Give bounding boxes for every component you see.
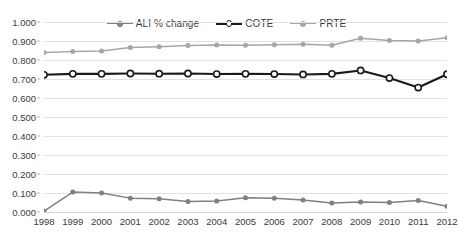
y-axis: 0.0000.1000.2000.3000.4000.5000.6000.700… xyxy=(0,22,40,212)
data-series xyxy=(44,190,447,212)
x-axis-tick-label: 2002 xyxy=(149,216,170,227)
data-point-marker xyxy=(99,191,104,196)
data-point-marker xyxy=(157,196,162,201)
x-axis-tick-label: 2001 xyxy=(120,216,141,227)
y-axis-tick-mark xyxy=(37,79,40,80)
data-point-marker xyxy=(156,71,162,77)
x-axis-tick-label: 2008 xyxy=(321,216,342,227)
y-axis-tick-label: 0.800 xyxy=(12,55,36,66)
data-point-marker xyxy=(185,43,190,48)
data-point-marker xyxy=(358,67,364,73)
y-axis-tick-label: 0.900 xyxy=(12,36,36,47)
data-series xyxy=(44,67,447,90)
y-axis-tick-mark xyxy=(37,174,40,175)
data-point-marker xyxy=(300,71,306,77)
x-axis-tick-label: 2010 xyxy=(379,216,400,227)
data-series xyxy=(44,35,447,55)
x-axis-tick-label: 2012 xyxy=(436,216,457,227)
y-axis-tick-label: 0.500 xyxy=(12,112,36,123)
data-point-marker xyxy=(387,200,392,205)
y-axis-tick-label: 0.700 xyxy=(12,74,36,85)
data-point-marker xyxy=(329,200,334,205)
data-point-marker xyxy=(416,39,421,44)
data-point-marker xyxy=(128,196,133,201)
x-axis-tick-label: 1999 xyxy=(62,216,83,227)
data-point-marker xyxy=(416,198,421,203)
data-point-marker xyxy=(70,190,75,195)
data-point-marker xyxy=(70,49,75,54)
data-point-marker xyxy=(157,44,162,49)
y-axis-tick-mark xyxy=(37,22,40,23)
x-axis-tick-label: 2006 xyxy=(264,216,285,227)
series-layer xyxy=(44,22,447,212)
data-point-marker xyxy=(329,43,334,48)
y-axis-tick-mark xyxy=(37,155,40,156)
y-axis-tick-mark xyxy=(37,117,40,118)
plot-area xyxy=(44,22,447,212)
data-point-marker xyxy=(185,199,190,204)
x-axis-tick-label: 2004 xyxy=(206,216,227,227)
data-point-marker xyxy=(444,71,447,77)
data-point-marker xyxy=(214,42,219,47)
x-axis-tick-label: 2000 xyxy=(91,216,112,227)
data-point-marker xyxy=(98,71,104,77)
y-axis-tick-mark xyxy=(37,193,40,194)
x-axis-tick-label: 2009 xyxy=(350,216,371,227)
series-line xyxy=(44,192,447,211)
data-point-marker xyxy=(99,49,104,54)
data-point-marker xyxy=(44,72,47,78)
x-axis-tick-label: 2011 xyxy=(408,216,428,227)
x-axis-tick-label: 2003 xyxy=(177,216,198,227)
y-axis-tick-mark xyxy=(37,212,40,213)
data-point-marker xyxy=(44,50,47,55)
data-point-marker xyxy=(127,70,133,76)
y-axis-tick-label: 1.000 xyxy=(12,17,36,28)
y-axis-tick-label: 0.300 xyxy=(12,150,36,161)
y-axis-tick-label: 0.000 xyxy=(12,207,36,218)
y-axis-tick-label: 0.600 xyxy=(12,93,36,104)
data-point-marker xyxy=(301,198,306,203)
data-point-marker xyxy=(185,70,191,76)
y-axis-tick-mark xyxy=(37,98,40,99)
y-axis-tick-mark xyxy=(37,136,40,137)
data-point-marker xyxy=(214,198,219,203)
y-axis-tick-mark xyxy=(37,41,40,42)
x-axis: 1998199920002001200220032004200520062007… xyxy=(44,214,447,234)
data-point-marker xyxy=(358,36,363,41)
data-point-marker xyxy=(386,75,392,81)
y-axis-tick-mark xyxy=(37,60,40,61)
data-point-marker xyxy=(242,71,248,77)
data-point-marker xyxy=(243,43,248,48)
data-point-marker xyxy=(445,204,448,209)
data-point-marker xyxy=(271,71,277,77)
data-point-marker xyxy=(387,38,392,43)
data-point-marker xyxy=(70,71,76,77)
gridline xyxy=(44,212,447,213)
data-point-marker xyxy=(358,200,363,205)
data-point-marker xyxy=(214,71,220,77)
data-point-marker xyxy=(272,196,277,201)
x-axis-tick-label: 2005 xyxy=(235,216,256,227)
data-point-marker xyxy=(272,42,277,47)
data-point-marker xyxy=(301,42,306,47)
y-axis-tick-label: 0.400 xyxy=(12,131,36,142)
data-point-marker xyxy=(329,71,335,77)
data-point-marker xyxy=(243,195,248,200)
data-point-marker xyxy=(415,84,421,90)
data-point-marker xyxy=(128,45,133,50)
x-axis-tick-label: 1998 xyxy=(33,216,54,227)
x-axis-tick-label: 2007 xyxy=(292,216,313,227)
y-axis-tick-label: 0.100 xyxy=(12,188,36,199)
data-point-marker xyxy=(445,35,448,40)
y-axis-tick-label: 0.200 xyxy=(12,169,36,180)
